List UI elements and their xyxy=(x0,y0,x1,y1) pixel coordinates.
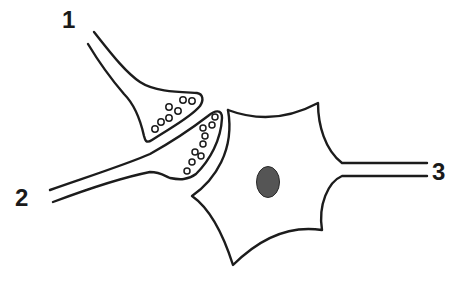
label-1: 1 xyxy=(62,8,75,32)
axon-2 xyxy=(50,111,222,202)
axon-1 xyxy=(88,32,202,142)
vesicles-terminal-2 xyxy=(184,114,218,174)
synapse-diagram xyxy=(0,0,465,288)
label-3: 3 xyxy=(432,160,445,184)
label-2: 2 xyxy=(15,186,28,210)
postsynaptic-cell xyxy=(192,103,427,265)
nucleus xyxy=(257,167,280,198)
